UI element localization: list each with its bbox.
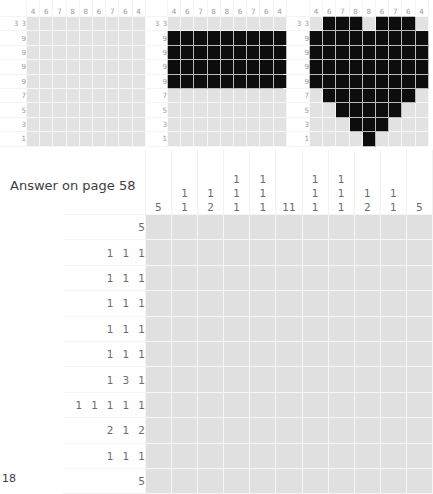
example-cell-filled[interactable]	[181, 31, 194, 45]
example-cell-empty[interactable]	[402, 132, 415, 146]
main-cell-empty[interactable]	[276, 291, 302, 316]
example-cell-empty[interactable]	[207, 117, 220, 131]
example-cell-empty[interactable]	[168, 132, 181, 146]
example-cell-empty[interactable]	[79, 88, 92, 102]
main-cell-empty[interactable]	[406, 291, 432, 316]
example-cell-filled[interactable]	[375, 17, 388, 31]
main-cell-empty[interactable]	[171, 443, 197, 468]
example-cell-empty[interactable]	[260, 103, 273, 117]
example-cell-empty[interactable]	[66, 74, 79, 88]
example-cell-empty[interactable]	[92, 103, 105, 117]
example-cell-filled[interactable]	[310, 74, 323, 88]
example-cell-empty[interactable]	[207, 88, 220, 102]
main-cell-empty[interactable]	[302, 291, 328, 316]
example-cell-filled[interactable]	[402, 88, 415, 102]
example-cell-empty[interactable]	[247, 117, 260, 131]
main-cell-empty[interactable]	[276, 367, 302, 392]
example-cell-empty[interactable]	[310, 132, 323, 146]
main-cell-empty[interactable]	[145, 316, 171, 341]
example-cell-empty[interactable]	[53, 17, 66, 31]
example-cell-empty[interactable]	[27, 132, 40, 146]
example-cell-filled[interactable]	[402, 60, 415, 74]
example-cell-empty[interactable]	[27, 103, 40, 117]
example-cell-empty[interactable]	[415, 88, 428, 102]
example-cell-empty[interactable]	[106, 17, 119, 31]
example-cell-empty[interactable]	[220, 103, 233, 117]
example-cell-empty[interactable]	[260, 132, 273, 146]
example-cell-filled[interactable]	[375, 60, 388, 74]
example-cell-filled[interactable]	[415, 74, 428, 88]
main-cell-empty[interactable]	[171, 418, 197, 443]
example-cell-empty[interactable]	[92, 31, 105, 45]
example-cell-filled[interactable]	[207, 45, 220, 59]
example-cell-empty[interactable]	[415, 132, 428, 146]
main-cell-empty[interactable]	[145, 291, 171, 316]
example-cell-empty[interactable]	[106, 103, 119, 117]
example-cell-empty[interactable]	[402, 103, 415, 117]
example-cell-empty[interactable]	[66, 117, 79, 131]
example-cell-empty[interactable]	[92, 60, 105, 74]
main-cell-empty[interactable]	[198, 240, 224, 265]
main-cell-empty[interactable]	[380, 392, 406, 417]
example-cell-empty[interactable]	[27, 31, 40, 45]
example-cell-filled[interactable]	[375, 31, 388, 45]
main-cell-empty[interactable]	[145, 265, 171, 290]
example-cell-empty[interactable]	[310, 17, 323, 31]
main-cell-empty[interactable]	[198, 215, 224, 240]
example-cell-empty[interactable]	[119, 45, 132, 59]
example-cell-filled[interactable]	[402, 17, 415, 31]
example-cell-filled[interactable]	[194, 60, 207, 74]
example-cell-empty[interactable]	[336, 132, 349, 146]
example-cell-empty[interactable]	[92, 88, 105, 102]
example-cell-empty[interactable]	[40, 17, 53, 31]
main-cell-empty[interactable]	[406, 418, 432, 443]
example-cell-empty[interactable]	[181, 103, 194, 117]
example-cell-filled[interactable]	[389, 17, 402, 31]
example-cell-empty[interactable]	[247, 88, 260, 102]
main-cell-empty[interactable]	[354, 392, 380, 417]
example-cell-filled[interactable]	[220, 74, 233, 88]
example-cell-filled[interactable]	[336, 31, 349, 45]
example-cell-filled[interactable]	[168, 31, 181, 45]
main-cell-empty[interactable]	[380, 443, 406, 468]
example-cell-empty[interactable]	[53, 60, 66, 74]
main-cell-empty[interactable]	[250, 265, 276, 290]
example-cell-empty[interactable]	[106, 117, 119, 131]
example-cell-filled[interactable]	[362, 60, 375, 74]
main-cell-empty[interactable]	[250, 240, 276, 265]
example-cell-empty[interactable]	[375, 132, 388, 146]
main-cell-empty[interactable]	[276, 316, 302, 341]
main-cell-empty[interactable]	[328, 418, 354, 443]
example-cell-empty[interactable]	[119, 103, 132, 117]
example-cell-filled[interactable]	[310, 60, 323, 74]
main-cell-empty[interactable]	[145, 418, 171, 443]
example-cell-empty[interactable]	[92, 117, 105, 131]
example-cell-empty[interactable]	[92, 17, 105, 31]
example-cell-empty[interactable]	[310, 117, 323, 131]
example-cell-empty[interactable]	[53, 31, 66, 45]
main-cell-empty[interactable]	[198, 367, 224, 392]
example-cell-empty[interactable]	[79, 117, 92, 131]
main-cell-empty[interactable]	[276, 265, 302, 290]
example-cell-filled[interactable]	[389, 45, 402, 59]
example-cell-empty[interactable]	[40, 74, 53, 88]
example-cell-filled[interactable]	[402, 74, 415, 88]
example-cell-empty[interactable]	[40, 103, 53, 117]
main-cell-empty[interactable]	[302, 367, 328, 392]
main-cell-empty[interactable]	[198, 443, 224, 468]
example-cell-filled[interactable]	[247, 45, 260, 59]
example-cell-empty[interactable]	[27, 117, 40, 131]
example-cell-filled[interactable]	[220, 45, 233, 59]
example-cell-filled[interactable]	[260, 45, 273, 59]
example-cell-filled[interactable]	[389, 103, 402, 117]
example-cell-filled[interactable]	[181, 60, 194, 74]
main-cell-empty[interactable]	[406, 367, 432, 392]
main-cell-empty[interactable]	[302, 392, 328, 417]
example-cell-filled[interactable]	[375, 45, 388, 59]
main-cell-empty[interactable]	[198, 291, 224, 316]
example-cell-filled[interactable]	[220, 31, 233, 45]
example-cell-filled[interactable]	[389, 60, 402, 74]
example-cell-filled[interactable]	[323, 45, 336, 59]
example-cell-filled[interactable]	[310, 31, 323, 45]
example-cell-filled[interactable]	[181, 45, 194, 59]
